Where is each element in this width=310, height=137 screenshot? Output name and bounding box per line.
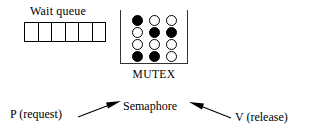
mutex-group: MUTEX bbox=[120, 10, 188, 81]
mutex-token bbox=[149, 51, 160, 62]
p-request-arrow-head bbox=[106, 101, 121, 109]
p-request-arrow-shaft bbox=[78, 104, 112, 117]
mutex-token bbox=[166, 51, 177, 62]
queue-cell bbox=[39, 23, 53, 41]
mutex-label: MUTEX bbox=[120, 67, 188, 81]
mutex-token bbox=[166, 27, 177, 38]
mutex-token bbox=[132, 51, 143, 62]
mutex-token bbox=[149, 27, 160, 38]
mutex-token-grid bbox=[129, 14, 180, 62]
mutex-token bbox=[149, 15, 160, 26]
mutex-token bbox=[149, 39, 160, 50]
queue-cell bbox=[52, 23, 66, 41]
wait-queue-label: Wait queue bbox=[24, 4, 106, 18]
semaphore-label: Semaphore bbox=[123, 99, 177, 113]
mutex-token bbox=[132, 15, 143, 26]
p-request-label: P (request) bbox=[10, 107, 62, 121]
mutex-token bbox=[132, 39, 143, 50]
wait-queue-box bbox=[24, 22, 106, 42]
queue-cell bbox=[93, 23, 106, 41]
mutex-token bbox=[166, 39, 177, 50]
p-request-arrow bbox=[78, 101, 121, 117]
v-release-arrow bbox=[189, 102, 231, 118]
queue-cell bbox=[25, 23, 39, 41]
queue-cell bbox=[66, 23, 80, 41]
v-release-arrow-head bbox=[189, 102, 204, 110]
mutex-token bbox=[132, 27, 143, 38]
v-release-arrow-shaft bbox=[198, 105, 231, 118]
mutex-token bbox=[166, 15, 177, 26]
semaphore-diagram: Wait queue MUTEX P (request) Semaphore V… bbox=[0, 0, 310, 137]
mutex-container bbox=[120, 10, 188, 64]
wait-queue-group: Wait queue bbox=[24, 4, 106, 42]
queue-cell bbox=[79, 23, 93, 41]
v-release-label: V (release) bbox=[235, 110, 288, 124]
